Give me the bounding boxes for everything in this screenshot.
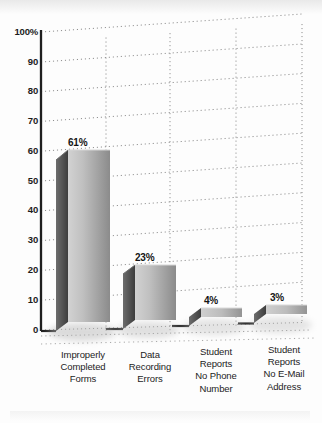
y-tick-10: 10 bbox=[4, 295, 38, 305]
category-label-1: Improperly Completed Forms bbox=[48, 349, 118, 386]
category-label-3: Student Reports No Phone Number bbox=[181, 346, 251, 395]
value-label-bar-2: 23% bbox=[135, 252, 154, 263]
value-label-bar-3: 4% bbox=[204, 295, 218, 306]
bar-group-student-reports-no-phone-number[interactable] bbox=[182, 308, 246, 335]
bar-group-improperly-completed-forms[interactable] bbox=[48, 150, 116, 341]
bar-side-face bbox=[123, 265, 135, 329]
value-label-bar-1: 61% bbox=[68, 137, 87, 148]
y-tick-70: 70 bbox=[4, 116, 38, 126]
y-tick-80: 80 bbox=[4, 86, 38, 96]
y-tick-100: 100% bbox=[4, 27, 38, 37]
category-label-2: Data Recording Errors bbox=[116, 349, 184, 386]
y-tick-30: 30 bbox=[4, 235, 38, 245]
bar-front-face bbox=[68, 150, 110, 322]
y-tick-0: 0 bbox=[4, 325, 38, 335]
bar-front-face bbox=[135, 265, 176, 320]
y-tick-90: 90 bbox=[4, 57, 38, 67]
bar-group-data-recording-errors[interactable] bbox=[116, 265, 180, 338]
y-tick-50: 50 bbox=[4, 176, 38, 186]
value-label-bar-4: 3% bbox=[270, 292, 284, 303]
bar-group-student-reports-no-email-address[interactable] bbox=[248, 305, 312, 333]
bar-front-face bbox=[201, 308, 242, 317]
y-tick-20: 20 bbox=[4, 265, 38, 275]
bar-chart: 100% 90 80 70 60 50 40 30 20 10 0 61% 23… bbox=[0, 0, 322, 423]
y-axis-tick-labels: 100% 90 80 70 60 50 40 30 20 10 0 bbox=[0, 0, 38, 423]
y-tick-60: 60 bbox=[4, 146, 38, 156]
bar-front-face bbox=[266, 305, 307, 314]
category-label-4: Student Reports No E-Mail Address bbox=[248, 344, 320, 393]
y-tick-40: 40 bbox=[4, 205, 38, 215]
bar-side-face bbox=[56, 150, 68, 331]
